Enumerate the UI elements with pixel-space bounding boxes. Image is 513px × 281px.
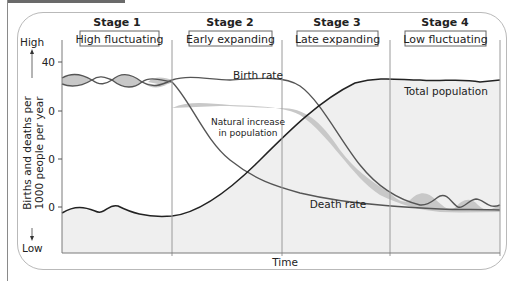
demographic-transition-chart: 40 30 20 10 High Low Births and deaths p… (0, 0, 513, 281)
death-rate-label: Death rate (310, 198, 366, 210)
x-axis-title: Time (271, 256, 298, 268)
y-high-label: High (20, 36, 44, 48)
y-tick-label-40: 40 (42, 56, 55, 68)
stage4-title: Stage 4 (421, 16, 469, 29)
arrow-down-icon (30, 236, 34, 241)
y-axis-title: Births and deaths per 1000 people per ye… (21, 95, 45, 209)
stage1-title: Stage 1 (93, 16, 140, 29)
stage2-label: Early expanding (186, 33, 275, 46)
stage1-label: High fluctuating (75, 33, 163, 46)
natural-increase-label-1: Natural increase (211, 117, 285, 127)
natural-increase-label-2: in population (219, 128, 278, 138)
stage3-title: Stage 3 (313, 16, 360, 29)
stage4-label: Low fluctuating (403, 33, 487, 46)
y-axis-title-line-1: Births and deaths per (21, 95, 33, 209)
total-population-label: Total population (403, 85, 488, 97)
birth-rate-label: Birth rate (233, 69, 283, 81)
stage2-title: Stage 2 (206, 16, 253, 29)
population-area (62, 79, 500, 253)
y-low-label: Low (22, 242, 43, 254)
stage3-label: Late expanding (295, 33, 380, 46)
arrow-up-icon (30, 49, 34, 54)
y-axis-title-line-2: 1000 people per year (33, 96, 45, 210)
